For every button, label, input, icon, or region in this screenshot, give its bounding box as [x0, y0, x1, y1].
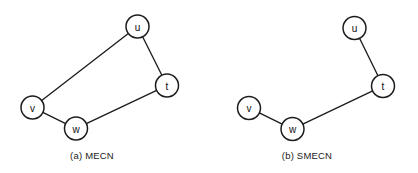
- panel-b-node-v-label: v: [247, 103, 252, 114]
- panel-b-node-t-label: t: [382, 81, 385, 92]
- panel-a-node-v[interactable]: v: [21, 96, 44, 119]
- panel-b-node-u-label: u: [352, 23, 358, 34]
- panel-b-edge-u-t: [360, 39, 378, 75]
- figure-root: utvw(a) MECNutvw(b) SMECN: [0, 0, 418, 173]
- panel-a-node-w-label: w: [71, 124, 80, 135]
- network-diagram-canvas: utvw(a) MECNutvw(b) SMECN: [0, 0, 418, 173]
- panel-a-edge-u-t: [143, 37, 162, 75]
- panel-a-edge-w-v: [43, 113, 65, 124]
- panel-b-edge-t-w: [303, 91, 372, 124]
- panel-b-node-w[interactable]: w: [281, 118, 304, 141]
- panel-a-node-u-label: u: [135, 22, 141, 33]
- panel-b-node-u[interactable]: u: [343, 17, 366, 40]
- panel-a-node-t-label: t: [166, 81, 169, 92]
- panel-b-edge-w-v: [260, 113, 282, 124]
- panel-a-edge-v-u: [42, 34, 128, 100]
- panel-a: utvw(a) MECN: [21, 15, 179, 161]
- panel-b-node-t[interactable]: t: [372, 75, 395, 98]
- panel-a-node-w[interactable]: w: [65, 117, 88, 140]
- panel-a-edge-t-w: [87, 91, 156, 124]
- panel-a-node-t[interactable]: t: [156, 74, 179, 97]
- panel-b: utvw(b) SMECN: [238, 17, 395, 162]
- panel-b-caption: (b) SMECN: [282, 150, 332, 161]
- panel-b-node-v[interactable]: v: [238, 97, 261, 120]
- panel-b-node-w-label: w: [288, 124, 297, 135]
- panel-a-caption: (a) MECN: [70, 150, 114, 161]
- panel-a-node-u[interactable]: u: [126, 15, 149, 38]
- panel-a-node-v-label: v: [30, 103, 35, 114]
